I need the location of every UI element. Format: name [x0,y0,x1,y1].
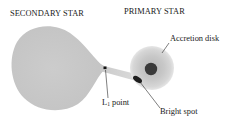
diagram-canvas [0,0,240,128]
accretion-disk-label: Accretion disk [170,34,219,43]
l1-point-leader-line [106,70,109,98]
primary-star [145,63,157,75]
binary-star-diagram: SECONDARY STAR PRIMARY STAR Accretion di… [0,0,240,128]
l1-point-marker [104,67,107,70]
l1-point-label-suffix: point [110,98,129,107]
secondary-star-lobe [12,26,104,110]
secondary-star-heading: SECONDARY STAR [10,9,84,18]
l1-point-label: L1 point [102,98,129,107]
primary-star-heading: PRIMARY STAR [124,7,185,16]
bright-spot-label: Bright spot [160,107,197,116]
